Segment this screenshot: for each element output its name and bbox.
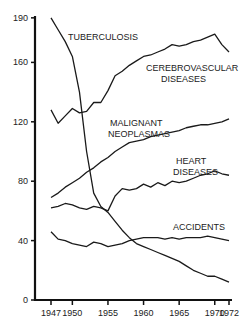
label-tuberculosis: TUBERCULOSIS — [68, 32, 138, 42]
line-chart: 04080120160190 1947195019551960196519701… — [0, 0, 252, 327]
label-cerebrovascular-1: CEREBROVASCULAR — [146, 63, 239, 73]
y-axis-ticks: 04080120160190 — [13, 13, 35, 305]
label-cerebrovascular-2: DISEASES — [161, 74, 206, 84]
y-tick-label: 80 — [18, 176, 28, 186]
y-tick-label: 120 — [13, 117, 28, 127]
series-accidents — [51, 232, 229, 247]
x-tick-label: 1960 — [134, 308, 154, 318]
label-heart-2: DISEASES — [173, 167, 218, 177]
label-heart-1: HEART — [176, 156, 207, 166]
x-axis-ticks: 1947195019551960196519701972 — [41, 300, 239, 318]
y-tick-label: 40 — [18, 236, 28, 246]
y-tick-label: 0 — [23, 295, 28, 305]
series-tuberculosis — [51, 18, 229, 282]
series-lines — [51, 18, 229, 282]
x-tick-label: 1965 — [169, 308, 189, 318]
y-tick-label: 190 — [13, 13, 28, 23]
y-tick-label: 160 — [13, 57, 28, 67]
x-tick-label: 1950 — [62, 308, 82, 318]
x-tick-label: 1947 — [41, 308, 61, 318]
label-accidents: ACCIDENTS — [173, 222, 225, 232]
x-tick-label: 1955 — [98, 308, 118, 318]
label-malignant-1: MALIGNANT — [110, 118, 163, 128]
x-tick-label: 1972 — [219, 308, 239, 318]
label-malignant-2: NEOPLASMAS — [108, 129, 170, 139]
